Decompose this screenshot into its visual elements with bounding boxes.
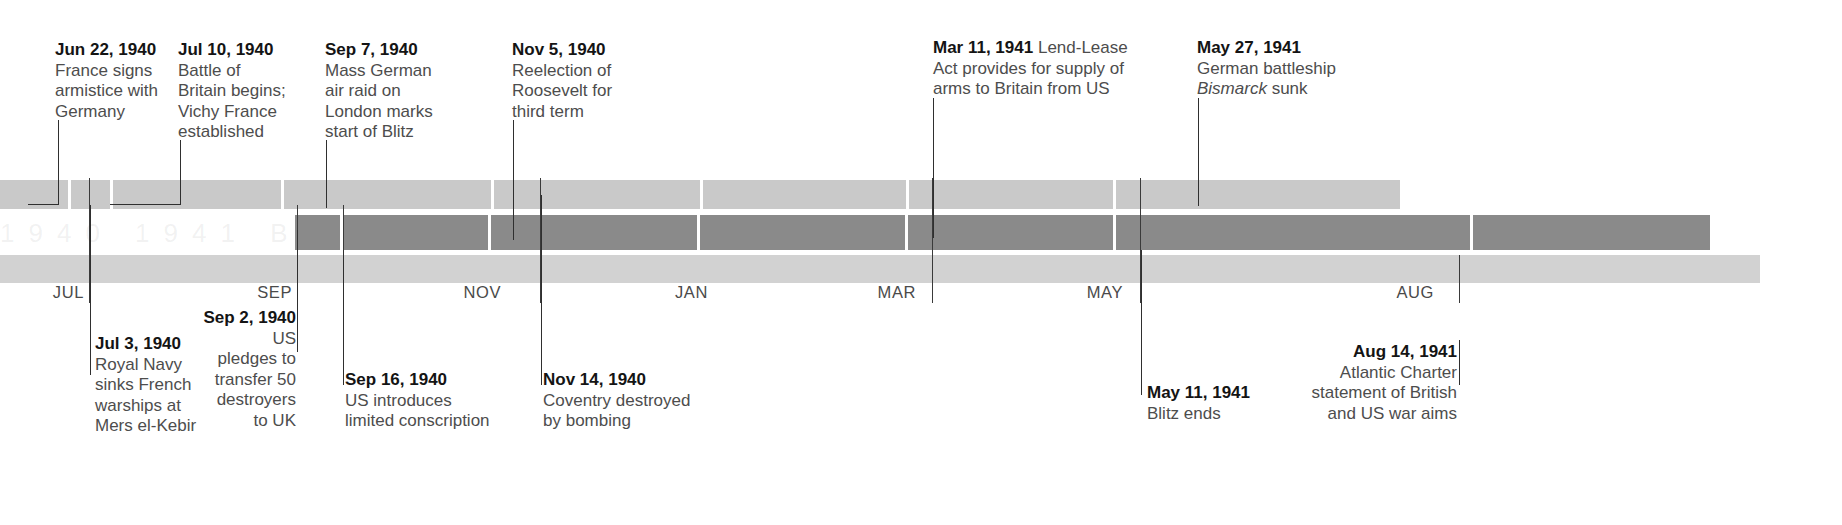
note-italic-word: Bismarck <box>1197 79 1267 98</box>
note-line: limited conscription <box>345 411 490 430</box>
bar-separator <box>697 215 700 250</box>
timeline-bar-upper <box>0 180 1400 209</box>
bar-separator <box>491 180 494 209</box>
note-line: start of Blitz <box>325 122 414 141</box>
axis-tick-labels: JUL SEP NOV JAN MAR MAY AUG <box>0 283 1842 309</box>
timeline-bar-axis <box>0 255 1760 283</box>
note-line: warships at <box>95 396 181 415</box>
timeline-figure: 1940 1941 BATTLE OF BRITAIN JUL SEP NOV … <box>0 0 1842 525</box>
bar-separator <box>905 215 908 250</box>
note-nov-5-1940: Nov 5, 1940 Reelection of Roosevelt for … <box>512 40 642 122</box>
bar-separator <box>1113 180 1116 209</box>
axis-tick-jan: JAN <box>675 283 713 302</box>
note-date: May 27, 1941 <box>1197 38 1301 57</box>
bar-separator <box>700 180 703 209</box>
note-date: Nov 5, 1940 <box>512 40 606 59</box>
note-line: Germany <box>55 102 125 121</box>
note-sep-7-1940: Sep 7, 1940 Mass German air raid on Lond… <box>325 40 465 143</box>
note-line: Mers el-Kebir <box>95 416 196 435</box>
leader-line-sep-16-1940 <box>343 250 344 385</box>
axis-tick-aug: AUG <box>1396 283 1439 302</box>
leader-line-nov-5-1940 <box>513 120 514 240</box>
leader-line-jun-22-1940-foot <box>28 204 59 205</box>
axis-tick-mar: MAR <box>878 283 921 302</box>
axis-tick-nov: NOV <box>463 283 506 302</box>
note-line: sinks French <box>95 375 191 394</box>
note-sep-16-1940: Sep 16, 1940 US introduces limited consc… <box>345 370 545 432</box>
bar-separator <box>1113 215 1116 250</box>
note-line: US introduces <box>345 391 452 410</box>
note-date: Sep 7, 1940 <box>325 40 418 59</box>
note-line: US <box>272 329 296 348</box>
note-line: to UK <box>253 411 296 430</box>
note-line: arms to Britain from US <box>933 79 1110 98</box>
note-line: Vichy France <box>178 102 277 121</box>
note-date: Jul 10, 1940 <box>178 40 273 59</box>
note-line: sunk <box>1272 79 1308 98</box>
note-date: Sep 2, 1940 <box>203 308 296 327</box>
note-line: and US war aims <box>1328 404 1457 423</box>
leader-line-jul-10-1940 <box>180 140 181 205</box>
note-line: air raid on <box>325 81 401 100</box>
leader-line-mar-11-1941 <box>933 98 934 238</box>
note-line: Reelection of <box>512 61 611 80</box>
leader-line-may-11-1941 <box>1141 250 1142 395</box>
note-date: Sep 16, 1940 <box>345 370 447 389</box>
note-jun-22-1940: Jun 22, 1940 France signs armistice with… <box>55 40 185 122</box>
note-date: May 11, 1941 <box>1147 383 1250 402</box>
note-may-27-1941: May 27, 1941 German battleship Bismarck … <box>1197 38 1387 100</box>
note-line: armistice with <box>55 81 158 100</box>
note-line: German battleship <box>1197 59 1336 78</box>
leader-line-nov-14-1940 <box>541 195 542 385</box>
bar-separator <box>488 215 491 250</box>
bar-separator <box>1470 215 1473 250</box>
note-line: Mass German <box>325 61 432 80</box>
note-line: London marks <box>325 102 433 121</box>
bar-separator <box>68 180 71 209</box>
note-line: Roosevelt for <box>512 81 612 100</box>
timeline-bar-middle <box>295 215 1710 250</box>
note-jul-10-1940: Jul 10, 1940 Battle of Britain begins; V… <box>178 40 313 143</box>
note-line: transfer 50 <box>215 370 296 389</box>
note-line: destroyers <box>217 390 296 409</box>
leader-line-aug-14-1941 <box>1459 340 1460 385</box>
axis-tick-may: MAY <box>1087 283 1128 302</box>
leader-line-jul-10-1940-foot <box>110 204 181 205</box>
note-date: Mar 11, 1941 <box>933 38 1033 57</box>
note-aug-14-1941: Aug 14, 1941 Atlantic Charter statement … <box>1291 342 1457 424</box>
leader-line-jun-22-1940 <box>58 120 59 205</box>
note-date: Jun 22, 1940 <box>55 40 156 59</box>
bar-separator <box>906 180 909 209</box>
note-line: Act provides for supply of <box>933 59 1124 78</box>
bar-separator <box>281 180 284 209</box>
note-line: Lend-Lease <box>1038 38 1128 57</box>
leader-line-sep-2-1940 <box>297 230 298 352</box>
note-line: Coventry destroyed <box>543 391 690 410</box>
note-line: Atlantic Charter <box>1340 363 1457 382</box>
axis-tick-jul: JUL <box>53 283 89 302</box>
note-mar-11-1941: Mar 11, 1941 Lend-Lease Act provides for… <box>933 38 1153 100</box>
leader-line-may-27-1941 <box>1198 98 1199 206</box>
note-date: Aug 14, 1941 <box>1353 342 1457 361</box>
note-date: Nov 14, 1940 <box>543 370 646 389</box>
note-line: France signs <box>55 61 152 80</box>
note-line: Battle of <box>178 61 240 80</box>
note-sep-2-1940: Sep 2, 1940 US pledges to transfer 50 de… <box>196 308 296 431</box>
axis-tick-sep: SEP <box>257 283 297 302</box>
note-may-11-1941: May 11, 1941 Blitz ends <box>1147 383 1307 424</box>
note-line: statement of British <box>1311 383 1457 402</box>
note-line: by bombing <box>543 411 631 430</box>
note-line: Royal Navy <box>95 355 182 374</box>
leader-line-sep-7-1940 <box>326 140 327 208</box>
note-nov-14-1940: Nov 14, 1940 Coventry destroyed by bombi… <box>543 370 743 432</box>
leader-line-jul-3-1940 <box>90 205 91 375</box>
note-line: pledges to <box>218 349 296 368</box>
note-date: Jul 3, 1940 <box>95 334 181 353</box>
note-line: third term <box>512 102 584 121</box>
note-line: established <box>178 122 264 141</box>
note-line: Blitz ends <box>1147 404 1221 423</box>
note-line: Britain begins; <box>178 81 286 100</box>
